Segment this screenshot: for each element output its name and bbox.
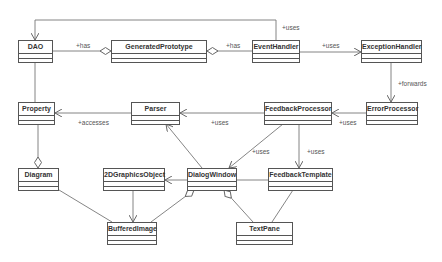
class-2dgraphicsobject[interactable]: 2DGraphicsObject bbox=[103, 168, 165, 191]
class-operations bbox=[362, 59, 421, 63]
class-name: FeedbackTemplate bbox=[269, 169, 332, 182]
class-name: EventHandler bbox=[253, 41, 299, 54]
rel-dialogwindow-textpane bbox=[224, 190, 253, 222]
class-name: TextPane bbox=[237, 223, 292, 236]
class-name: Property bbox=[19, 103, 54, 116]
class-operations bbox=[132, 121, 179, 125]
label-feedbackprocessor-uses-dialogwindow: +uses bbox=[252, 148, 270, 155]
label-eventhandler-uses-exceptionhandler: +uses bbox=[322, 42, 340, 49]
class-name: DAO bbox=[19, 41, 52, 54]
class-parser[interactable]: Parser bbox=[131, 102, 180, 125]
label-feedbackprocessor-uses-parser: +uses bbox=[211, 119, 229, 126]
class-name: ExceptionHandler bbox=[362, 41, 421, 54]
class-operations bbox=[253, 59, 299, 63]
class-operations bbox=[19, 121, 54, 125]
class-operations bbox=[237, 241, 292, 245]
class-property[interactable]: Property bbox=[18, 102, 55, 125]
class-generatedprototype[interactable]: GeneratedPrototype bbox=[111, 40, 207, 63]
class-name: BufferedImage bbox=[108, 223, 156, 236]
class-textpane[interactable]: TextPane bbox=[236, 222, 293, 245]
class-operations bbox=[265, 121, 331, 125]
class-name: DialogWindow bbox=[188, 169, 236, 182]
class-operations bbox=[19, 59, 52, 63]
class-name: GeneratedPrototype bbox=[112, 41, 206, 54]
class-dialogwindow[interactable]: DialogWindow bbox=[187, 168, 237, 191]
rel-diagram-bufferedimage bbox=[59, 190, 112, 222]
rel-dialogwindow-bufferedimage bbox=[151, 190, 194, 222]
class-operations bbox=[19, 187, 58, 191]
class-name: ErrorProcessor bbox=[367, 103, 417, 116]
class-name: Parser bbox=[132, 103, 179, 116]
class-dao[interactable]: DAO bbox=[18, 40, 53, 63]
class-name: Diagram bbox=[19, 169, 58, 182]
label-forwards: +forwards bbox=[398, 80, 427, 87]
label-accesses: +accesses bbox=[78, 119, 109, 126]
label-gp-has: +has bbox=[226, 42, 240, 49]
class-exceptionhandler[interactable]: ExceptionHandler bbox=[361, 40, 422, 63]
class-name: 2DGraphicsObject bbox=[104, 169, 164, 182]
label-dao-has: +has bbox=[76, 42, 90, 49]
class-operations bbox=[269, 187, 332, 191]
class-operations bbox=[367, 121, 417, 125]
class-operations bbox=[104, 187, 164, 191]
rel-eventhandler-uses-dao bbox=[35, 20, 276, 40]
label-feedbackprocessor-uses-feedbacktemplate: +uses bbox=[307, 148, 325, 155]
rel-feedbackprocessor-uses-dialogwindow bbox=[229, 124, 283, 168]
class-operations bbox=[108, 241, 156, 245]
class-operations bbox=[112, 59, 206, 63]
class-feedbackprocessor[interactable]: FeedbackProcessor bbox=[264, 102, 332, 125]
class-errorprocessor[interactable]: ErrorProcessor bbox=[366, 102, 418, 125]
rel-feedbacktemplate-textpane bbox=[272, 190, 293, 222]
class-name: FeedbackProcessor bbox=[265, 103, 331, 116]
class-bufferedimage[interactable]: BufferedImage bbox=[107, 222, 157, 245]
label-errorprocessor-uses: +uses bbox=[339, 119, 357, 126]
rel-dialogwindow-parser bbox=[166, 124, 202, 168]
class-feedbacktemplate[interactable]: FeedbackTemplate bbox=[268, 168, 333, 191]
class-diagram[interactable]: Diagram bbox=[18, 168, 59, 191]
class-eventhandler[interactable]: EventHandler bbox=[252, 40, 300, 63]
label-eventhandler-uses-dao: +uses bbox=[282, 24, 300, 31]
class-operations bbox=[188, 187, 236, 191]
